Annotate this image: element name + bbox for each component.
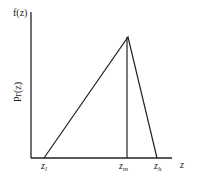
x-axis-label: z (179, 159, 184, 170)
tick-z-low: zl (40, 160, 47, 173)
triangular-distribution-diagram: f(z) Pr(z) z zl zm zh (0, 0, 199, 181)
y-axis-top-label: f(z) (13, 7, 27, 19)
tick-z-mode: zm (118, 160, 128, 173)
triangle-pdf (44, 37, 157, 158)
y-axis-side-label: Pr(z) (12, 82, 24, 102)
tick-z-high: zh (153, 160, 162, 173)
